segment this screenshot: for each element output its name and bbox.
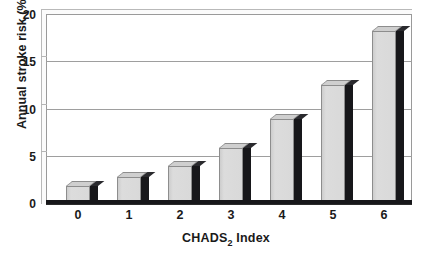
- bar-4: [270, 119, 294, 205]
- bar-4-front-face: [270, 119, 294, 205]
- y-tick-label-0: 0: [8, 197, 36, 211]
- bar-5-front-face: [321, 85, 345, 204]
- gridline-10-depth: [41, 104, 47, 105]
- x-tick-label-2: 2: [160, 208, 200, 222]
- bar-5-side-face: [345, 85, 353, 204]
- chart-figure: Annual stroke risk (%) 20 15 10 5 0: [0, 0, 424, 259]
- y-tick-label-5: 5: [8, 150, 36, 164]
- x-axis-line: [46, 204, 412, 205]
- x-axis-title: CHADS2 Index: [40, 231, 412, 248]
- gridline-5-depth: [41, 151, 47, 152]
- bar-6-front-face: [372, 31, 396, 204]
- bar-3: [219, 148, 243, 204]
- x-axis-title-tail: Index: [233, 231, 270, 245]
- x-tick-label-0: 0: [58, 208, 98, 222]
- bar-6: [372, 31, 396, 204]
- gridline-10: [46, 109, 412, 110]
- y-tick-label-10: 10: [8, 103, 36, 117]
- x-tick-label-4: 4: [262, 208, 302, 222]
- y-axis-tick-labels: 20 15 10 5 0: [0, 0, 36, 259]
- gridline-15-depth: [41, 56, 47, 57]
- y-tick-label-15: 15: [8, 55, 36, 69]
- bar-3-front-face: [219, 148, 243, 204]
- x-axis-title-base: CHADS: [182, 231, 227, 245]
- bar-6-side-face: [396, 31, 404, 204]
- y-tick-label-20: 20: [8, 8, 36, 22]
- bar-4-side-face: [294, 119, 302, 205]
- bar-2-side-face: [192, 166, 200, 204]
- x-tick-label-6: 6: [364, 208, 404, 222]
- x-tick-label-3: 3: [211, 208, 251, 222]
- bar-3-side-face: [243, 148, 251, 204]
- gridline-15: [46, 61, 412, 62]
- bar-2-front-face: [168, 166, 192, 204]
- x-tick-label-5: 5: [313, 208, 353, 222]
- bar-5: [321, 85, 345, 204]
- bar-2: [168, 166, 192, 204]
- x-tick-label-1: 1: [109, 208, 149, 222]
